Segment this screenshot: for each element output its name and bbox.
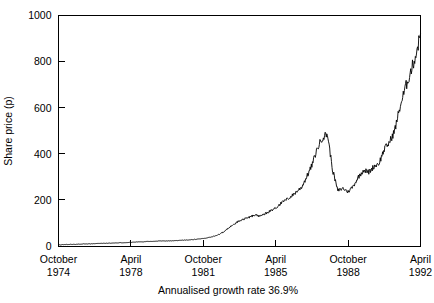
x-tick-label-month: April [410,253,431,265]
x-axis-tick-labels: October1974April1978October1981April1985… [40,253,433,278]
x-tick-label-month: April [120,253,141,265]
share-price-line-chart: 02004006008001000 October1974April1978Oc… [0,0,434,303]
x-tick-label-month: April [265,253,286,265]
x-tick-label-month: October [40,253,78,265]
y-axis-tick-labels: 02004006008001000 [28,9,52,252]
y-tick-label: 400 [34,148,52,160]
x-tick-label-year: 1992 [409,266,433,278]
chart-caption: Annualised growth rate 36.9% [158,284,298,296]
x-tick-label-year: 1974 [47,266,71,278]
y-tick-label: 800 [34,55,52,67]
x-tick-label-year: 1988 [336,266,360,278]
plot-area-frame [59,16,421,247]
x-tick-label-year: 1985 [264,266,288,278]
y-axis-title: Share price (p) [2,96,14,165]
x-tick-label-month: October [185,253,223,265]
y-tick-label: 200 [34,194,52,206]
x-tick-label-year: 1978 [119,266,143,278]
y-tick-label: 600 [34,102,52,114]
x-tick-label-year: 1981 [192,266,216,278]
chart-figure: 02004006008001000 October1974April1978Oc… [0,0,434,303]
x-tick-label-month: October [329,253,367,265]
y-tick-label: 0 [46,240,52,252]
y-tick-label: 1000 [28,9,52,21]
